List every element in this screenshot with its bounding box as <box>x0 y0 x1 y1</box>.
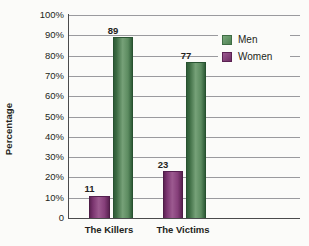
y-tick-label: 70% <box>4 71 64 81</box>
bar-women-the-victims[interactable] <box>163 171 183 218</box>
bar-value-label: 89 <box>93 25 133 36</box>
legend-label-men: Men <box>238 34 257 46</box>
y-axis-tick-labels: 100% 90% 80% 70% 60% 50% 40% 30% 20% 10%… <box>0 0 64 246</box>
bar-value-label: 77 <box>166 50 206 61</box>
y-tick-label: 100% <box>4 10 64 20</box>
y-tick-label: 80% <box>4 51 64 61</box>
gridline <box>68 15 300 16</box>
gridline <box>68 117 300 118</box>
y-tick-label: 40% <box>4 132 64 142</box>
legend-swatch-men-icon <box>222 35 232 45</box>
bar-men-the-killers[interactable] <box>113 37 133 218</box>
y-tick-label: 0 <box>4 213 64 223</box>
bar-women-the-killers[interactable] <box>89 196 110 218</box>
y-tick-label: 50% <box>4 112 64 122</box>
gridline <box>68 96 300 97</box>
legend-item-women[interactable]: Women <box>222 48 288 65</box>
bar-value-label: 23 <box>143 159 183 170</box>
legend-item-men[interactable]: Men <box>222 31 288 48</box>
y-tick-label: 30% <box>4 152 64 162</box>
y-tick-label: 60% <box>4 91 64 101</box>
gridline <box>68 137 300 138</box>
legend-swatch-women-icon <box>222 52 232 62</box>
gridline <box>68 76 300 77</box>
y-tick-label: 10% <box>4 193 64 203</box>
x-axis-line <box>68 218 300 219</box>
legend: Men Women <box>218 28 290 69</box>
bar-value-label: 11 <box>70 183 110 194</box>
bar-chart: Percentage 100% 90% 80% 70% 60% 50% 40% … <box>0 0 309 246</box>
gridline <box>68 157 300 158</box>
bar-men-the-victims[interactable] <box>186 62 206 218</box>
legend-label-women: Women <box>238 51 272 63</box>
x-category-label-the-victims: The Victims <box>138 224 228 236</box>
y-tick-label: 20% <box>4 172 64 182</box>
y-tick-label: 90% <box>4 30 64 40</box>
gridline <box>68 177 300 178</box>
